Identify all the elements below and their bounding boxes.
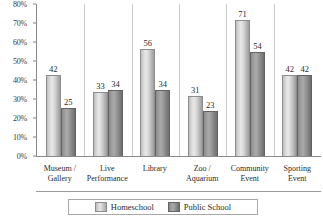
y-axis-tick-mark bbox=[33, 42, 36, 43]
category-label: Zoo /Aquarium bbox=[179, 162, 227, 191]
bar: 25 bbox=[61, 108, 76, 157]
bar: 34 bbox=[155, 90, 170, 156]
y-axis-tick-label: 30% bbox=[13, 95, 27, 104]
bar-value-label: 42 bbox=[286, 64, 295, 74]
legend-swatch-homeschool bbox=[95, 202, 107, 212]
bar-value-label: 34 bbox=[111, 79, 120, 89]
category-label-line: Aquarium bbox=[186, 174, 218, 184]
category-label-line: Performance bbox=[87, 174, 128, 184]
y-axis-tick-mark bbox=[33, 137, 36, 138]
bar-group: 3123 bbox=[179, 4, 226, 156]
bar-value-label: 54 bbox=[253, 41, 262, 51]
category-label-line: Sporting bbox=[283, 164, 311, 174]
y-axis-tick-label: 60% bbox=[13, 38, 27, 47]
bar: 71 bbox=[235, 20, 250, 156]
chart-legend: Homeschool Public School bbox=[68, 199, 258, 215]
legend-label-public-school: Public School bbox=[184, 202, 231, 212]
bar-value-label: 25 bbox=[64, 97, 73, 107]
y-axis-tick-label: 50% bbox=[13, 57, 27, 66]
bar-groups: 422533345634312371544242 bbox=[37, 4, 321, 156]
y-axis-tick-mark bbox=[33, 61, 36, 62]
legend-label-homeschool: Homeschool bbox=[111, 202, 154, 212]
bar: 56 bbox=[140, 49, 155, 156]
bar-value-label: 31 bbox=[191, 85, 200, 95]
legend-item-homeschool: Homeschool bbox=[95, 202, 154, 212]
y-axis-tick-mark bbox=[33, 118, 36, 119]
y-axis-tick-label: 0% bbox=[17, 152, 27, 161]
bar-group: 3334 bbox=[84, 4, 131, 156]
bar-chart: 80%70%60%50%40%30%20%10%0% 4225333456343… bbox=[0, 0, 323, 220]
bar-value-label: 34 bbox=[159, 79, 168, 89]
bar-value-label: 71 bbox=[238, 9, 247, 19]
bar: 33 bbox=[93, 92, 108, 156]
y-axis-tick-label: 40% bbox=[13, 76, 27, 85]
bar-group: 7154 bbox=[226, 4, 273, 156]
bar-value-label: 42 bbox=[49, 64, 58, 74]
category-label: CommunityEvent bbox=[226, 162, 274, 191]
category-label-line: Zoo / bbox=[194, 164, 211, 174]
legend-swatch-public-school bbox=[168, 202, 180, 212]
category-label-line: Live bbox=[100, 164, 115, 174]
y-axis-tick-mark bbox=[33, 156, 36, 157]
bar-value-label: 33 bbox=[96, 81, 105, 91]
category-label: SportingEvent bbox=[274, 162, 322, 191]
y-axis-tick-label: 20% bbox=[13, 114, 27, 123]
y-axis-tick-mark bbox=[33, 23, 36, 24]
category-label-line: Event bbox=[240, 174, 259, 184]
category-label-line: Community bbox=[231, 164, 269, 174]
category-label-line: Event bbox=[288, 174, 307, 184]
bar: 23 bbox=[203, 111, 218, 156]
category-label: LivePerformance bbox=[84, 162, 132, 191]
bar-value-label: 42 bbox=[301, 64, 310, 74]
y-axis-tick-label: 80% bbox=[13, 0, 27, 9]
bar-group: 5634 bbox=[132, 4, 179, 156]
category-labels: Museum /GalleryLivePerformanceLibraryZoo… bbox=[36, 162, 321, 192]
category-label-line: Library bbox=[143, 164, 167, 174]
legend-item-public-school: Public School bbox=[168, 202, 231, 212]
y-axis-tick-label: 70% bbox=[13, 19, 27, 28]
bar: 31 bbox=[188, 96, 203, 156]
category-label-line: Gallery bbox=[48, 174, 72, 184]
bar-value-label: 23 bbox=[206, 100, 215, 110]
plot-area: 80%70%60%50%40%30%20%10%0% 4225333456343… bbox=[0, 4, 323, 162]
x-axis-line bbox=[36, 156, 321, 157]
y-axis: 80%70%60%50%40%30%20%10%0% bbox=[0, 4, 33, 162]
y-axis-tick-label: 10% bbox=[13, 133, 27, 142]
bar: 34 bbox=[108, 90, 123, 156]
y-axis-tick-mark bbox=[33, 80, 36, 81]
bar: 42 bbox=[46, 75, 61, 156]
y-axis-tick-mark bbox=[33, 4, 36, 5]
bar-group: 4242 bbox=[274, 4, 321, 156]
bar-value-label: 56 bbox=[144, 38, 153, 48]
bar: 42 bbox=[282, 75, 297, 156]
bar-group: 4225 bbox=[37, 4, 84, 156]
category-label: Museum /Gallery bbox=[36, 162, 84, 191]
category-label-line: Museum / bbox=[44, 164, 76, 174]
category-label: Library bbox=[131, 162, 179, 191]
bar: 42 bbox=[297, 75, 312, 156]
bar: 54 bbox=[250, 52, 265, 156]
y-axis-tick-mark bbox=[33, 99, 36, 100]
